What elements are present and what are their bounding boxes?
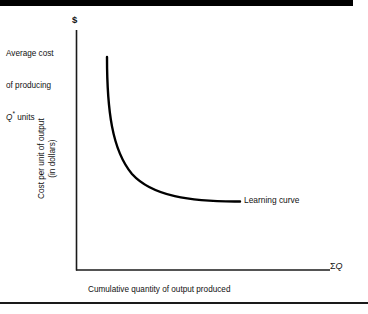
learning-curve-path <box>107 57 240 202</box>
average-cost-note-line2: of producing <box>6 81 72 92</box>
x-axis-title: Cumulative quantity of output produced <box>88 285 230 296</box>
bottom-divider-rule <box>0 302 368 304</box>
y-axis-title: Cost per unit of output (in dollars) <box>37 99 58 219</box>
average-cost-note-line1: Average cost <box>6 49 72 60</box>
q-variable: Q <box>336 261 343 271</box>
y-axis-unit-symbol: $ <box>72 15 77 26</box>
y-axis-title-line2: (in dollars) <box>48 99 59 219</box>
figure-container: $ Average cost of producing Q* units Cos… <box>0 0 368 314</box>
learning-curve-label: Learning curve <box>244 195 299 206</box>
q-star-units-word: units <box>15 113 35 122</box>
y-axis-title-line1: Cost per unit of output <box>37 99 48 219</box>
x-axis-end-label: ΣQ <box>330 261 343 272</box>
